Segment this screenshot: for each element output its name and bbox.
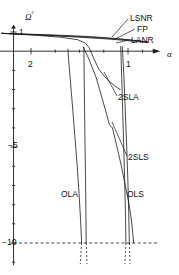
leader-line-4	[112, 122, 127, 156]
chart-figure: Ω² α 1 −5 −10 2 1 LSNR FP LANR 2SLA 2SLS…	[0, 0, 179, 275]
annotation-fp: FP	[137, 25, 148, 34]
curve-2sla-branch	[83, 47, 112, 128]
annotation-2sls: 2SLS	[128, 153, 149, 162]
curve-2sla	[2, 33, 120, 89]
x-tick-label-2: 2	[28, 60, 33, 69]
dashed-continuations-group	[80, 243, 130, 264]
dashed-continuation-1	[86, 243, 87, 264]
leader-line-3	[104, 72, 117, 96]
curve-ols	[121, 46, 126, 243]
annotation-ols: OLS	[127, 190, 144, 199]
annotation-lanr: LANR	[131, 36, 154, 45]
x-tick-label-1: 1	[126, 60, 131, 69]
dashed-continuation-2	[125, 243, 126, 264]
y-tick-label-minus-5: −5	[8, 141, 18, 150]
y-axis-label: Ω²	[25, 11, 33, 22]
dashed-continuation-3	[129, 243, 130, 264]
curve-ola	[68, 49, 82, 243]
curve-ola-right	[84, 47, 86, 243]
annotation-2sla: 2SLA	[118, 93, 139, 102]
y-tick-label-minus-10: −10	[2, 238, 16, 247]
x-axis-label: α	[167, 50, 172, 59]
leader-line-0	[112, 19, 128, 37]
annotation-ola: OLA	[61, 190, 78, 199]
y-tick-label-1: 1	[19, 28, 24, 37]
annotation-lsnr: LSNR	[130, 14, 153, 23]
dashed-continuation-0	[80, 243, 81, 264]
axes-group	[0, 25, 160, 265]
curve-2sls	[112, 128, 133, 243]
